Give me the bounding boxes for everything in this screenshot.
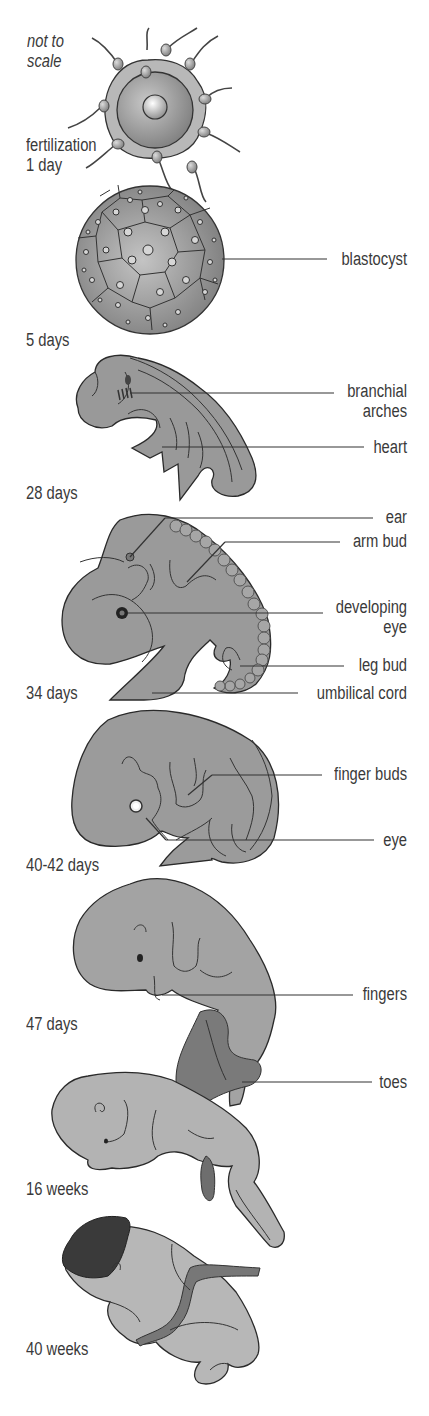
blastocyst-label: blastocyst [341,249,407,269]
eye-label: eye [383,830,407,850]
age-5-days-label: 5 days [26,330,69,350]
age-40-42-days-label: 40-42 days [26,855,99,875]
embryo-28-days [76,355,364,500]
embryo-development-illustration [0,0,429,1416]
fertilization-age-label: 1 day [26,155,62,175]
fingers-label: fingers [363,984,407,1004]
heart-label: heart [373,437,407,457]
toes-label: toes [379,1072,407,1092]
age-47-days-label: 47 days [26,1014,78,1034]
not-to-scale-note-line2: scale [27,51,61,71]
fertilization-label: fertilization [26,135,97,155]
ear-label: ear [386,507,407,527]
baby-40-weeks [62,1216,260,1384]
branchial-arches-label-line2: arches [363,401,407,421]
blastocyst-illustration [76,185,327,334]
not-to-scale-note-line1: not to [27,31,64,51]
fertilization-ovum [68,28,240,202]
age-28-days-label: 28 days [26,483,78,503]
embryo-34-days [62,514,373,700]
finger-buds-label: finger buds [334,764,407,784]
arm-bud-label: arm bud [353,531,407,551]
leg-bud-label: leg bud [359,655,407,675]
fetus-16-weeks [52,1073,284,1248]
age-40-weeks-label: 40 weeks [26,1339,88,1359]
age-16-weeks-label: 16 weeks [26,1179,88,1199]
developing-eye-label-line2: eye [383,617,407,637]
developing-eye-label-line1: developing [336,597,407,617]
branchial-arches-label-line1: branchial [347,381,407,401]
umbilical-cord-label: umbilical cord [317,683,407,703]
age-34-days-label: 34 days [26,683,78,703]
embryo-40-42-days [72,711,374,866]
